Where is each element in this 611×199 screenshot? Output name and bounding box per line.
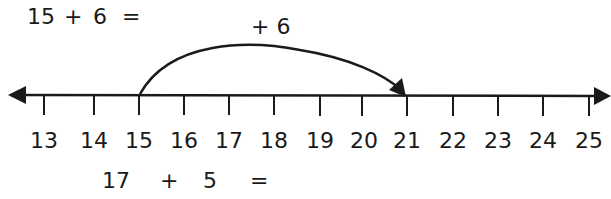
tick-label-22: 22 [439,130,467,152]
tick-marks [44,95,589,116]
tick-label-24: 24 [529,130,557,152]
tick-label-16: 16 [170,130,198,152]
tick-label-23: 23 [484,130,512,152]
bottom-addend-2: 5 [203,170,217,192]
tick-label-20: 20 [350,130,378,152]
tick-label-17: 17 [215,130,243,152]
right-arrow-icon [594,87,611,105]
tick-label-15: 15 [125,130,153,152]
tick-label-21: 21 [393,130,421,152]
jump-arc [140,45,401,94]
jump-arrow-icon [389,78,406,97]
tick-label-13: 13 [30,130,58,152]
number-line-axis [18,95,600,96]
left-arrow-icon [8,86,26,104]
tick-label-19: 19 [306,130,334,152]
number-line-diagram [0,0,611,199]
tick-label-14: 14 [80,130,108,152]
tick-label-18: 18 [260,130,288,152]
bottom-addend-1: 17 [102,170,130,192]
tick-label-25: 25 [575,130,603,152]
bottom-equals: = [250,170,268,192]
bottom-plus: + [160,170,178,192]
